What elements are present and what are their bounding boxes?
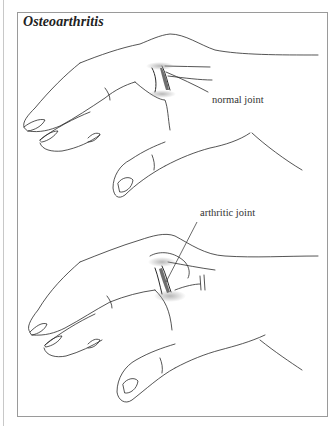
finger-lower-1 [28, 82, 135, 132]
fingernail-1 [30, 323, 47, 335]
tendon-line-1 [166, 72, 208, 92]
thumbnail [123, 379, 138, 394]
wrist-lower [260, 340, 302, 370]
knuckle-crease-2 [88, 133, 100, 142]
fingertip-3 [44, 340, 102, 357]
index-finger-upper [28, 262, 80, 332]
hand-top-outline [80, 234, 318, 262]
fingertip-3 [40, 135, 100, 151]
joint-shading-top [146, 62, 174, 70]
finger-lower-1 [32, 290, 155, 335]
fingernail-2 [40, 131, 58, 142]
thumb-crease [160, 358, 162, 373]
wrist-lower [252, 133, 302, 170]
palm-lower [135, 82, 170, 130]
swelling-arc-lower [175, 284, 200, 290]
arthritic-joint-leader-line [166, 222, 197, 282]
index-finger-upper [24, 63, 80, 127]
knuckle-crease-1 [105, 88, 110, 100]
joint-shading-bottom [154, 290, 186, 302]
hand-normal-joint [24, 34, 318, 197]
fingernail-1 [24, 119, 45, 131]
joint-shading-top [148, 257, 176, 267]
hand-top-outline [80, 34, 318, 63]
illustration [0, 0, 333, 426]
finger-2 [40, 112, 90, 140]
thumb-crease [152, 155, 154, 170]
joint-left-bone [152, 68, 156, 92]
thumb-outline [113, 142, 165, 197]
tendon-crease-1 [200, 276, 201, 290]
fingernail-2 [45, 336, 62, 347]
joint-shading-bottom [148, 90, 176, 98]
thumb-web [165, 133, 250, 166]
label-arthritic-joint: arthritic joint [200, 207, 255, 218]
tendon-line-2 [168, 76, 212, 80]
label-normal-joint: normal joint [212, 94, 264, 105]
finger-2 [45, 314, 95, 345]
thumb-web [175, 335, 265, 368]
tendon-crease-2 [204, 275, 205, 290]
